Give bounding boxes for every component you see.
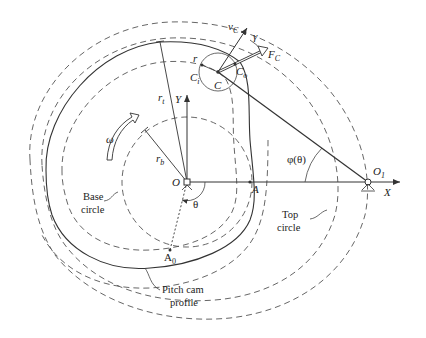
label-fc: FC [267,48,281,63]
label-c: C [214,79,222,91]
label-o: O [172,176,180,188]
label-y-axis: Y [175,93,183,105]
label-omega: ω [106,133,114,145]
o-a0-line [170,182,187,250]
inner-offset-curve-2 [42,140,268,288]
caption-pitch-profile-line2: profile [170,297,198,308]
label-rt: rt [158,91,165,106]
label-rb: rb [156,152,164,167]
base-circle-leader [104,192,118,201]
caption-top-circle-line2: circle [277,222,301,233]
point-ci [201,64,204,67]
caption-top-circle-line1: Top [282,209,298,220]
follower-arm [218,72,368,182]
label-a0: A0 [164,251,176,266]
label-r: r [193,52,198,64]
point-c [216,70,220,74]
caption-pitch-profile-line1: Pitch cam [162,284,204,295]
pitch-profile-leader [145,268,160,290]
label-theta: θ [193,198,198,210]
r-line [202,65,218,72]
caption-base-circle-line2: circle [81,204,105,215]
phi-arc [305,148,322,182]
label-gamma: γ [253,30,258,42]
caption-base-circle-line1: Base [83,191,104,202]
cam-diagram: O O1 X Y A A0 C Ci Co vC FC γ r rt rb ω … [0,0,426,338]
label-a: A [251,183,259,195]
label-ci: Ci [190,71,200,86]
outer-offset-curve [30,22,368,319]
label-x-axis: X [383,186,392,198]
rb-line [145,130,187,182]
label-phi: φ(θ) [287,153,306,166]
label-o1: O1 [373,165,385,180]
pivot-o-support [182,185,192,190]
label-co: Co [236,65,247,80]
label-vc: vC [228,20,239,35]
top-circle-leader [310,210,327,219]
pivot-o [184,179,190,185]
